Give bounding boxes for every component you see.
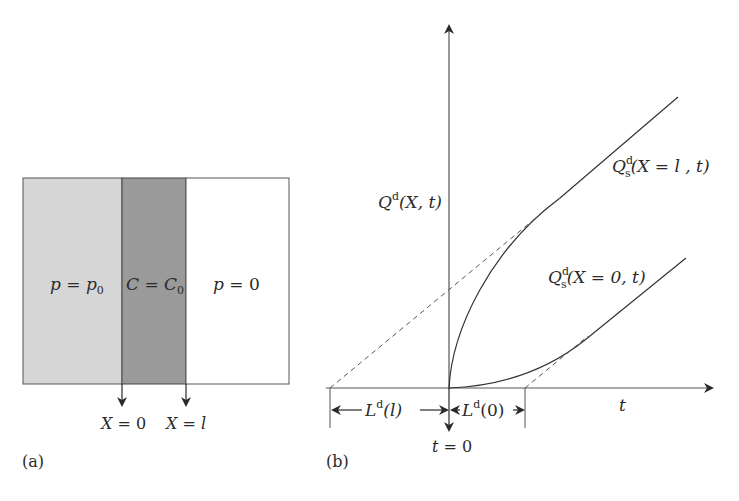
left-region-label: p = p0 — [50, 274, 104, 297]
asymptote-lower — [525, 336, 588, 388]
curve-upper — [449, 97, 678, 388]
curve-upper-label: Qds(X = l , t) — [612, 154, 710, 180]
marker-xl-label: X = l — [164, 414, 206, 433]
panel-b: Qd(X, t) Qds(X = l , t) Qds(X = 0, t) t … — [326, 26, 712, 471]
middle-region-label: C = C0 — [126, 274, 184, 297]
diagram-canvas: p = p0 C = C0 p = 0 X = 0 X = l (a) — [0, 0, 739, 501]
panel-a: p = p0 C = C0 p = 0 X = 0 X = l (a) — [22, 178, 289, 471]
y-axis-label: Qd(X, t) — [378, 190, 442, 212]
lag-left-label: Ld(l) — [364, 398, 402, 420]
x-axis-label: t — [619, 395, 626, 415]
marker-x0-label: X = 0 — [99, 414, 146, 433]
panel-b-label: (b) — [326, 452, 349, 471]
right-region-label: p = 0 — [213, 274, 260, 294]
panel-a-label: (a) — [22, 452, 44, 471]
lag-right-label: Ld(0) — [461, 398, 504, 420]
asymptote-upper — [330, 198, 560, 388]
curve-lower-label: Qds(X = 0, t) — [548, 265, 646, 291]
origin-label: t = 0 — [432, 437, 472, 456]
